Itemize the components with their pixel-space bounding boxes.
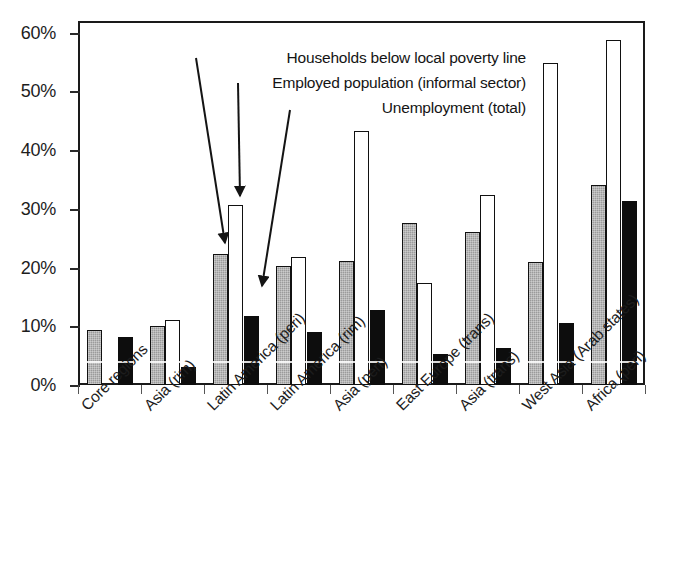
x-axis-label: Africa (peri): [582, 348, 648, 414]
x-axis-tick-mark: [393, 385, 394, 394]
x-axis-tick-mark: [141, 385, 142, 394]
x-axis-tick-mark: [456, 385, 457, 394]
x-axis-label: Asia (rim): [141, 357, 198, 414]
x-axis-tick-mark: [330, 385, 331, 394]
x-axis-label: Core regions: [78, 341, 150, 413]
x-axis-labels: Core regionsAsia (rim)Latin America (per…: [0, 0, 677, 563]
x-axis-label: Asia (peri): [330, 354, 390, 414]
x-axis-tick-mark: [582, 385, 583, 394]
x-axis-tick-mark: [645, 385, 646, 394]
x-axis-label: Asia (trans): [456, 348, 522, 414]
x-axis-tick-mark: [204, 385, 205, 394]
x-axis-tick-mark: [267, 385, 268, 394]
x-axis-label: West Asia (Arab states): [519, 291, 641, 413]
x-axis-tick-mark: [519, 385, 520, 394]
x-axis-tick-mark: [78, 385, 79, 394]
bar-chart-figure: 0%10%20%30%40%50%60% Households below lo…: [0, 0, 677, 563]
